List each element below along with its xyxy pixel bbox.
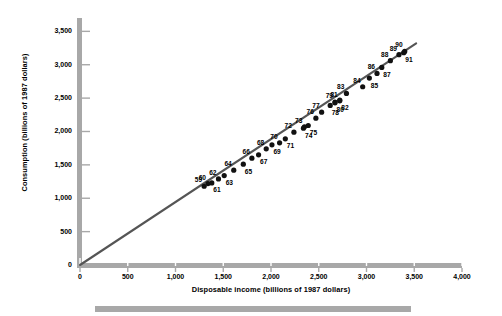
- data-point-label: 66: [243, 148, 251, 155]
- y-tick-label: 2,500: [20, 94, 72, 101]
- data-point-label: 70: [270, 133, 278, 140]
- plot-area: 5960616263646566676869707172737475767778…: [0, 0, 502, 316]
- data-point-label: 61: [213, 186, 221, 193]
- data-point-label: 68: [257, 139, 265, 146]
- x-axis-spine: [77, 263, 462, 268]
- data-point-label: 60: [199, 174, 207, 181]
- data-point-label: 91: [405, 56, 413, 63]
- x-tick-label: 2,500: [294, 273, 344, 280]
- data-point-label: 65: [245, 168, 253, 175]
- x-tick-label: 500: [103, 273, 153, 280]
- y-tick-label: 3,000: [20, 61, 72, 68]
- y-tick-label: 0: [20, 261, 72, 268]
- x-tick-label: 3,000: [342, 273, 392, 280]
- data-point-label: 69: [273, 148, 281, 155]
- data-point-label: 71: [287, 142, 295, 149]
- data-point-label: 67: [260, 158, 268, 165]
- decorative-footer-bar: [95, 306, 411, 312]
- data-point-label: 90: [395, 41, 403, 48]
- data-point-label: 84: [353, 77, 361, 84]
- x-tick-label: 4,000: [437, 273, 487, 280]
- data-point-label: 85: [371, 82, 379, 89]
- x-tick-label: 1,000: [151, 273, 201, 280]
- y-tick-label: 1,500: [20, 161, 72, 168]
- y-tick-label: 500: [20, 228, 72, 235]
- x-tick-label: 0: [55, 273, 105, 280]
- x-tick-label: 3,500: [389, 273, 439, 280]
- y-axis-spine: [77, 18, 82, 266]
- data-point-label: 76: [307, 108, 315, 115]
- data-point-label: 77: [312, 102, 320, 109]
- data-point-label: 72: [285, 122, 293, 129]
- scatter-chart-figure: Consumption (billions of 1987 dollars) D…: [0, 0, 502, 316]
- y-tick-label: 1,000: [20, 194, 72, 201]
- y-tick-label: 2,000: [20, 127, 72, 134]
- x-tick-label: 1,500: [198, 273, 248, 280]
- data-point-label: 82: [341, 104, 349, 111]
- data-point-label: 81: [330, 91, 338, 98]
- data-point-label: 75: [310, 129, 318, 136]
- data-point-label: 87: [383, 71, 391, 78]
- data-point-label: 64: [224, 160, 232, 167]
- data-point-label: 86: [368, 63, 376, 70]
- data-point-label: 88: [381, 51, 389, 58]
- data-point-label: 73: [295, 117, 303, 124]
- y-tick-marks: [82, 31, 90, 265]
- data-point-label: 62: [209, 169, 217, 176]
- x-tick-label: 2,000: [246, 273, 296, 280]
- data-point-label: 63: [226, 179, 234, 186]
- y-tick-label: 3,500: [20, 27, 72, 34]
- data-point-label: 83: [337, 83, 345, 90]
